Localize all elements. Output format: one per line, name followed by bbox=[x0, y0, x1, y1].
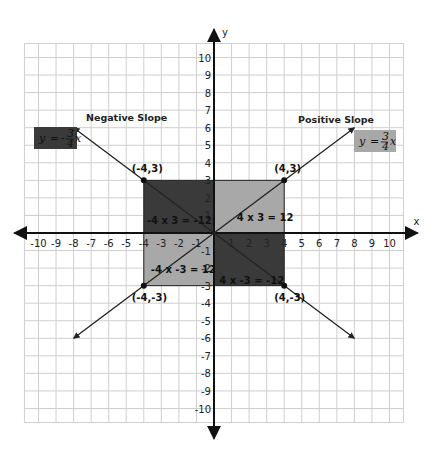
x-tick-label: -4 bbox=[139, 238, 149, 249]
positive-slope-equation-box: y=34x bbox=[354, 130, 397, 153]
positive-slope-label: Positive Slope bbox=[298, 114, 374, 125]
point-marker bbox=[141, 283, 147, 289]
region-product-label: -4 x -3 = 12 bbox=[151, 264, 216, 275]
negative-slope-label: Negative Slope bbox=[86, 112, 167, 123]
x-tick-label: 4 bbox=[281, 238, 287, 249]
axes: xy-10-9-8-7-6-5-4-3-2-112345678910109876… bbox=[14, 27, 419, 439]
point-marker bbox=[281, 177, 287, 183]
y-tick-label: -6 bbox=[201, 333, 211, 344]
negative-slope-equation-box: y=-34x bbox=[34, 127, 82, 150]
point-label: (-4,3) bbox=[132, 163, 163, 174]
y-tick-label: 6 bbox=[205, 123, 211, 134]
svg-text:x: x bbox=[390, 135, 397, 148]
svg-text:x: x bbox=[75, 132, 82, 145]
coordinate-plane-diagram: xy-10-9-8-7-6-5-4-3-2-112345678910109876… bbox=[0, 0, 431, 460]
x-tick-label: 6 bbox=[316, 238, 322, 249]
y-tick-label: 10 bbox=[198, 53, 211, 64]
x-tick-label: -9 bbox=[51, 238, 61, 249]
y-tick-label: 7 bbox=[205, 105, 211, 116]
y-tick-label: 5 bbox=[205, 140, 211, 151]
x-tick-label: 8 bbox=[351, 238, 357, 249]
x-tick-label: -3 bbox=[156, 238, 166, 249]
x-tick-label: -6 bbox=[104, 238, 114, 249]
x-axis-label: x bbox=[414, 216, 420, 227]
svg-text:4: 4 bbox=[66, 137, 74, 150]
x-tick-label: -5 bbox=[121, 238, 131, 249]
y-tick-label: 9 bbox=[205, 70, 211, 81]
y-tick-label: -1 bbox=[201, 246, 211, 257]
point-label: (4,3) bbox=[274, 163, 301, 174]
x-tick-label: -7 bbox=[86, 238, 96, 249]
x-tick-label: -10 bbox=[30, 238, 46, 249]
point-label: (-4,-3) bbox=[132, 292, 167, 303]
y-tick-label: 8 bbox=[205, 88, 211, 99]
x-tick-label: 2 bbox=[246, 238, 252, 249]
svg-text:=: = bbox=[370, 135, 379, 148]
x-tick-label: 3 bbox=[263, 238, 269, 249]
x-tick-label: 9 bbox=[369, 238, 375, 249]
svg-text:4: 4 bbox=[381, 140, 389, 153]
svg-text:y: y bbox=[358, 135, 366, 148]
y-tick-label: 2 bbox=[205, 193, 211, 204]
y-tick-label: -7 bbox=[201, 351, 211, 362]
region-product-label: -4 x 3 = -12 bbox=[147, 215, 212, 226]
svg-text:-: - bbox=[61, 132, 65, 145]
x-tick-label: 7 bbox=[334, 238, 340, 249]
y-tick-label: -4 bbox=[201, 298, 211, 309]
svg-text:y: y bbox=[38, 132, 46, 145]
y-tick-label: 3 bbox=[205, 175, 211, 186]
x-tick-label: -2 bbox=[174, 238, 184, 249]
x-tick-label: 10 bbox=[383, 238, 396, 249]
y-tick-label: -3 bbox=[201, 281, 211, 292]
region-product-label: 4 x -3 = -12 bbox=[219, 275, 284, 286]
x-tick-label: 5 bbox=[299, 238, 305, 249]
y-tick-label: -8 bbox=[201, 368, 211, 379]
y-tick-label: -10 bbox=[195, 404, 211, 415]
y-axis-label: y bbox=[222, 27, 228, 38]
region-product-label: 4 x 3 = 12 bbox=[237, 212, 294, 223]
svg-text:=: = bbox=[50, 132, 59, 145]
y-tick-label: 4 bbox=[205, 158, 211, 169]
y-tick-label: -9 bbox=[201, 386, 211, 397]
x-tick-label: -8 bbox=[69, 238, 79, 249]
point-marker bbox=[141, 177, 147, 183]
point-label: (4,-3) bbox=[274, 292, 305, 303]
y-tick-label: -5 bbox=[201, 316, 211, 327]
